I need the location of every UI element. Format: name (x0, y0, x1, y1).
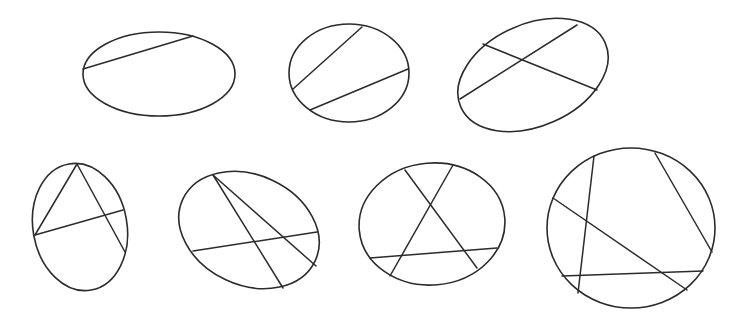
chord-line (562, 271, 703, 276)
ellipse-2 (289, 24, 409, 122)
ellipse-outline (160, 149, 339, 310)
chord-line (460, 25, 577, 99)
chord-line (310, 69, 408, 110)
chord-line (83, 36, 193, 69)
chord-line (193, 232, 317, 251)
ellipse-outline (354, 157, 510, 291)
chord-line (77, 164, 125, 252)
chord-line (655, 153, 712, 252)
ellipse-7 (547, 148, 715, 308)
chord-line (390, 165, 453, 276)
chord-line (213, 175, 316, 266)
figure-canvas (0, 0, 749, 324)
ellipse-4 (23, 156, 138, 298)
ellipse-5 (160, 149, 339, 310)
ellipse-outline (83, 32, 235, 116)
chord-line (370, 248, 497, 258)
ellipse-outline (547, 148, 715, 308)
ellipses-with-chords-diagram (0, 0, 749, 324)
ellipse-6 (354, 157, 510, 291)
ellipse-outline (440, 0, 626, 154)
ellipse-3 (440, 0, 626, 154)
chord-line (213, 175, 283, 288)
chord-line (293, 27, 362, 89)
ellipse-1 (83, 32, 235, 116)
chord-line (483, 44, 597, 90)
